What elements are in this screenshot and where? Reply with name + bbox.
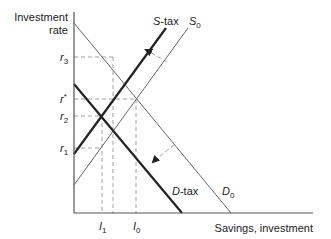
i0-label: I0 [133, 220, 141, 235]
r1-label: r1 [60, 142, 69, 157]
s0-curve [74, 28, 188, 185]
d-tax-label: D-tax [172, 185, 199, 197]
r2-label: r2 [60, 110, 69, 125]
x-axis-label: Savings, investment [215, 222, 313, 234]
d-tax-curve [74, 84, 182, 213]
s-tax-curve [74, 28, 166, 154]
d0-label: D0 [222, 185, 235, 200]
d-shift-arrow [153, 158, 157, 162]
d-shift-guide [155, 145, 174, 160]
r3-label: r3 [60, 51, 69, 66]
s0-label: S0 [189, 15, 201, 30]
savings-investment-diagram: Investment rate Savings, investment S-ta… [0, 0, 331, 239]
y-axis-label-line1: Investment [14, 11, 68, 23]
y-axis-label-line2: rate [49, 24, 68, 36]
s-tax-label: S-tax [153, 15, 179, 27]
r-star-label: r* [60, 92, 67, 105]
i1-label: I1 [99, 220, 107, 235]
d0-curve [74, 23, 231, 213]
